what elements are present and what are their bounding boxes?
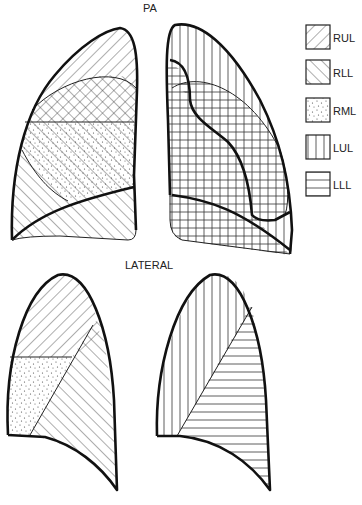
legend: RUL RLL RML LUL LLL [306, 25, 356, 196]
legend-item-rml: RML [306, 98, 356, 122]
legend-item-lul: LUL [306, 135, 353, 159]
lul-swatch-icon [306, 135, 330, 159]
lateral-left-lung [157, 274, 270, 490]
rml-swatch-icon [306, 98, 330, 122]
svg-text:RUL: RUL [333, 32, 355, 44]
svg-text:LUL: LUL [333, 142, 353, 154]
legend-item-lll: LLL [306, 172, 351, 196]
lateral-right-lung [8, 274, 117, 490]
svg-text:RML: RML [333, 105, 356, 117]
svg-text:LLL: LLL [333, 179, 351, 191]
svg-text:RLL: RLL [333, 67, 353, 79]
legend-item-rll: RLL [306, 60, 353, 84]
rll-swatch-icon [306, 60, 330, 84]
pa-view-title: PA [143, 2, 158, 14]
lung-lobes-diagram: PA LATERAL [0, 0, 362, 505]
rul-swatch-icon [306, 25, 330, 49]
lll-swatch-icon [306, 172, 330, 196]
legend-item-rul: RUL [306, 25, 355, 49]
lateral-view-title: LATERAL [125, 259, 173, 271]
